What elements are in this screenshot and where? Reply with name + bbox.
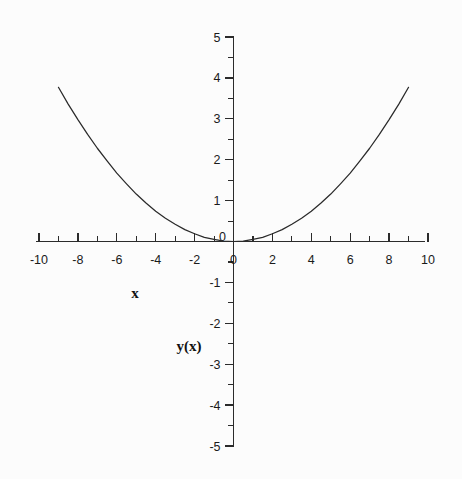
y-tick-label: -1 — [209, 276, 220, 290]
plot-canvas: -10-8-6-4-20246810 543210-1-2-3-4-5 x y(… — [0, 0, 462, 479]
x-tick-label: 8 — [386, 253, 393, 267]
x-tick-label: -4 — [150, 253, 161, 267]
y-tick-label: -5 — [209, 440, 220, 454]
x-tick-label: 10 — [421, 253, 435, 267]
y-tick-label: -3 — [209, 358, 220, 372]
y-tick-label: 5 — [214, 31, 221, 45]
y-tick-label: 4 — [214, 71, 221, 85]
x-tick-label: 0 — [230, 253, 237, 267]
x-tick-label: -10 — [30, 253, 48, 267]
y-tick-label: 1 — [214, 194, 221, 208]
function-plot: -10-8-6-4-20246810 543210-1-2-3-4-5 x y(… — [0, 0, 462, 479]
y-axis-label: y(x) — [177, 338, 202, 355]
x-tick-label: 2 — [269, 253, 276, 267]
y-tick-label: 3 — [214, 112, 221, 126]
x-tick-label: 6 — [347, 253, 354, 267]
y-tick-label: 2 — [214, 153, 221, 167]
x-tick-label: -8 — [72, 253, 83, 267]
y-tick-label: -4 — [209, 399, 220, 413]
x-tick-label: -6 — [111, 253, 122, 267]
plot-background — [0, 0, 462, 479]
x-tick-label: 4 — [308, 253, 315, 267]
x-tick-label: -2 — [189, 253, 200, 267]
x-axis-label: x — [131, 285, 139, 301]
y-tick-label: -2 — [209, 317, 220, 331]
